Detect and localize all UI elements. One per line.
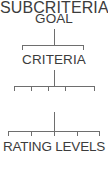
node-label-subcriteria: SUBCRITERIA <box>0 0 108 16</box>
connector-criteria-to-subcriteria <box>14 70 95 91</box>
connector-goal-to-criteria <box>22 29 84 50</box>
node-label-rating-levels: RATING LEVELS <box>0 140 108 154</box>
connector-subcriteria-to-rating-levels <box>8 112 100 136</box>
node-label-criteria: CRITERIA <box>0 53 108 67</box>
hierarchy-diagram: GOAL CRITERIA SUBCRITERIA RATING LEVELS <box>0 0 108 169</box>
